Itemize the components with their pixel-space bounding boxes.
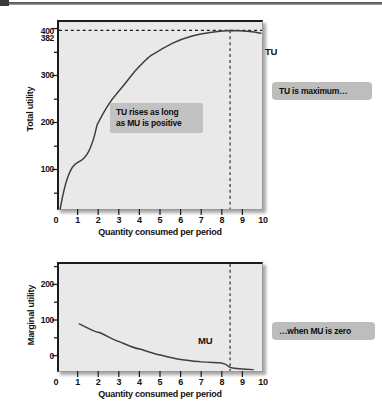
x-tick-label-4-mu: 4 [132,377,146,387]
header-rule [0,2,382,5]
x-tick-label-6-tu: 6 [174,215,188,225]
figure-container: Total utility 400 382 300 200 100 [0,0,382,407]
header-rule-cap [0,0,9,6]
x-tick-label-3-mu: 3 [112,377,126,387]
x-tick-label-1-mu: 1 [71,377,85,387]
x-tick-label-3-tu: 3 [112,215,126,225]
y-tick-label-100-mu: 100 [28,315,54,325]
x-tick-label-5-mu: 5 [153,377,167,387]
x-tick-label-8-tu: 8 [215,215,229,225]
marginal-utility-svg [59,264,262,371]
annotation-tu-rises-line1: TU rises as long [116,107,197,119]
x-axis-title-total-utility: Quantity consumed per period [57,227,263,237]
x-tick-label-7-mu: 7 [194,377,208,387]
mu-curve [79,324,253,370]
x-tick-label-9-mu: 9 [235,377,249,387]
x-tick-label-5-tu: 5 [153,215,167,225]
x-tick-label-10-tu: 10 [256,215,270,225]
y-tick-label-0-mu: 0 [28,351,54,361]
callout-mu-zero: …when MU is zero [272,322,375,340]
x-tick-label-4-tu: 4 [132,215,146,225]
y-axis-title-total-utility: Total utility [25,69,35,149]
x-axis-title-marginal-utility: Quantity consumed per period [57,389,263,399]
y-tick-label-100-tu: 100 [28,164,54,174]
y-tick-label-382-tu: 382 [28,33,54,43]
x-tick-label-2-mu: 2 [91,377,105,387]
x-tick-label-0-tu: 0 [49,215,63,225]
x-tick-label-10-mu: 10 [256,377,270,387]
y-tick-label-200-tu: 200 [28,117,54,127]
annotation-tu-rises: TU rises as long as MU is positive [110,103,203,133]
x-tick-label-8-mu: 8 [215,377,229,387]
x-tick-label-0-mu: 0 [49,377,63,387]
y-tick-label-200-mu: 200 [28,279,54,289]
x-tick-label-9-tu: 9 [235,215,249,225]
annotation-tu-rises-line2: as MU is positive [116,118,197,130]
x-tick-label-1-tu: 1 [71,215,85,225]
y-tick-label-300-tu: 300 [28,70,54,80]
plot-area-marginal-utility [59,264,262,371]
x-tick-label-2-tu: 2 [91,215,105,225]
curve-label-mu: MU [198,335,212,346]
callout-tu-maximum: TU is maximum… [272,82,372,100]
curve-label-tu: TU [265,46,277,57]
y-axis-ticks-total-utility [44,18,60,214]
plot-panel-marginal-utility [57,262,263,372]
x-tick-label-6-mu: 6 [174,377,188,387]
x-tick-label-7-tu: 7 [194,215,208,225]
